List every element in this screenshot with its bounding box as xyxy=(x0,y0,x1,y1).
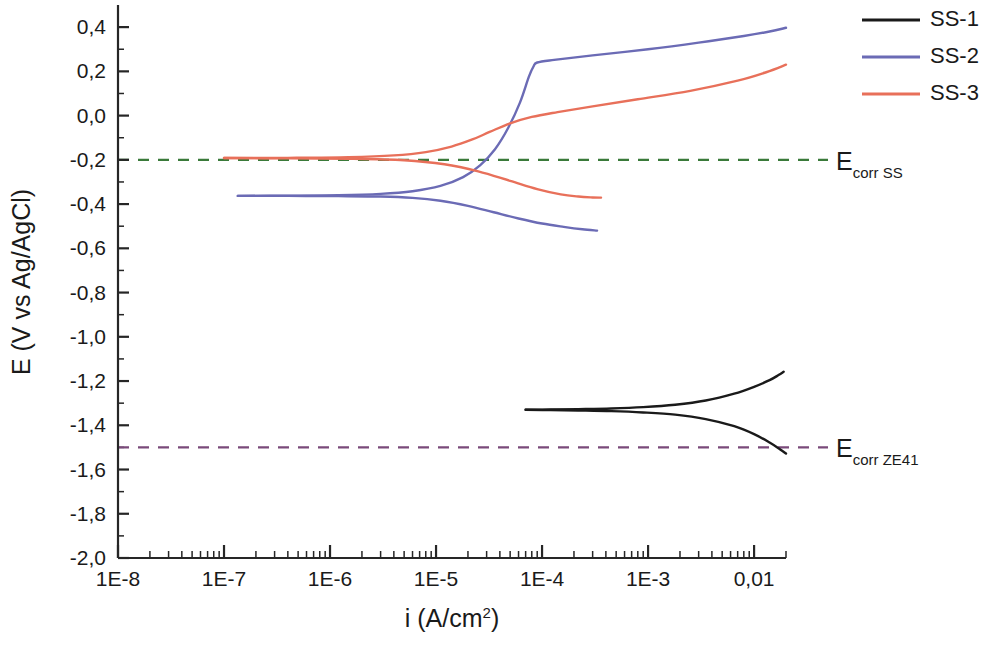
y-tick-label: -1,6 xyxy=(70,458,106,481)
y-tick-label: -0,6 xyxy=(70,236,106,259)
y-tick-label: -0,8 xyxy=(70,281,106,304)
curve-ss-3-anodic xyxy=(224,65,786,158)
x-tick-label: 1E-6 xyxy=(308,567,352,590)
y-tick-label: -2,0 xyxy=(70,546,106,569)
x-tick-label: 1E-8 xyxy=(96,567,140,590)
y-axis-title: E (V vs Ag/AgCl) xyxy=(7,189,35,375)
polarization-chart-figure: 0,40,20,0-0,2-0,4-0,6-0,8-1,0-1,2-1,4-1,… xyxy=(0,0,997,647)
reference-lines-group xyxy=(118,160,828,448)
x-axis-title: i (A/cm2) xyxy=(405,604,499,632)
y-tick-label: -1,8 xyxy=(70,502,106,525)
x-tick-label: 1E-5 xyxy=(414,567,458,590)
x-tick-label: 0,01 xyxy=(734,567,775,590)
y-tick-label: 0,0 xyxy=(77,104,106,127)
curve-ss-1-anodic xyxy=(526,372,784,410)
reference-line-labels: Ecorr SSEcorr ZE41 xyxy=(836,147,919,469)
y-tick-label: 0,4 xyxy=(77,15,107,38)
reference-line-label: Ecorr ZE41 xyxy=(836,434,919,468)
y-tick-label: -1,4 xyxy=(70,413,107,436)
chart-canvas: 0,40,20,0-0,2-0,4-0,6-0,8-1,0-1,2-1,4-1,… xyxy=(0,0,997,647)
y-tick-label: -1,2 xyxy=(70,369,106,392)
x-axis-tick-labels: 1E-81E-71E-61E-51E-41E-30,01 xyxy=(96,567,775,590)
legend-label-ss-2: SS-2 xyxy=(930,43,979,68)
y-axis-tick-labels: 0,40,20,0-0,2-0,4-0,6-0,8-1,0-1,2-1,4-1,… xyxy=(70,15,107,569)
legend: SS-1SS-2SS-3 xyxy=(862,6,979,105)
y-tick-label: -0,2 xyxy=(70,148,106,171)
curve-ss-2-cathodic xyxy=(238,196,597,231)
y-tick-label: -0,4 xyxy=(70,192,107,215)
x-tick-label: 1E-7 xyxy=(202,567,246,590)
curves-group xyxy=(224,28,786,454)
legend-label-ss-1: SS-1 xyxy=(930,6,979,31)
y-axis-major-ticks xyxy=(118,27,129,558)
x-tick-label: 1E-4 xyxy=(520,567,565,590)
y-tick-label: -1,0 xyxy=(70,325,106,348)
legend-label-ss-3: SS-3 xyxy=(930,80,979,105)
reference-line-label: Ecorr SS xyxy=(836,147,903,181)
x-tick-label: 1E-3 xyxy=(626,567,670,590)
y-tick-label: 0,2 xyxy=(77,59,106,82)
curve-ss-2-anodic xyxy=(238,28,786,196)
